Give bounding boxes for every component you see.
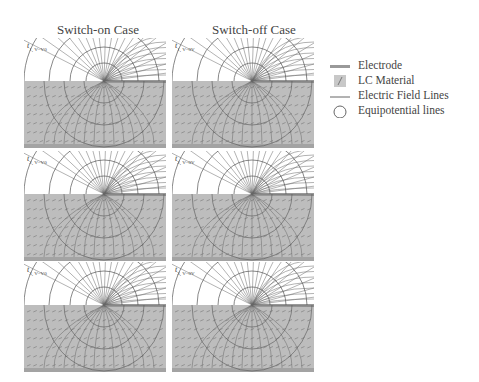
panel-time-label: t1, V=V0	[27, 41, 47, 52]
field-plot	[172, 262, 314, 374]
simulation-panel-on-t1: t1, V=V0	[24, 38, 166, 150]
simulation-panel-on-t3: t3, V=V0	[24, 262, 166, 374]
column-title-switch-on: Switch-on Case	[57, 22, 139, 38]
simulation-panel-on-t2: t2, V=V0	[24, 151, 166, 263]
legend-item-lc-material: LC Material	[330, 75, 479, 88]
legend: Electrode LC Material Electric Field Lin…	[330, 90, 479, 142]
panel-time-label: t1, V=0V	[175, 41, 195, 52]
panel-time-label: t2, V=V0	[27, 154, 47, 165]
lc-material-swatch-icon	[330, 75, 352, 88]
field-plot	[172, 151, 314, 263]
circle-outline-icon	[330, 105, 352, 118]
field-plot	[24, 151, 166, 263]
simulation-panel-off-t2: t2, V=0V	[172, 151, 314, 263]
legend-item-equipotential-lines: Equipotential lines	[330, 105, 479, 118]
simulation-panel-off-t3: t3, V=0V	[172, 262, 314, 374]
panel-time-label: t3, V=0V	[175, 265, 195, 276]
simulation-panel-off-t1: t1, V=0V	[172, 38, 314, 150]
field-line-swatch-icon	[330, 90, 352, 103]
legend-item-electric-field-lines: Electric Field Lines	[330, 90, 479, 103]
field-plot	[172, 38, 314, 150]
column-title-switch-off: Switch-off Case	[212, 22, 296, 38]
field-plot	[24, 38, 166, 150]
legend-item-electrode: Electrode	[330, 60, 479, 73]
electrode-swatch-icon	[330, 60, 352, 73]
panel-time-label: t2, V=0V	[175, 154, 195, 165]
panel-time-label: t3, V=V0	[27, 265, 47, 276]
field-plot	[24, 262, 166, 374]
